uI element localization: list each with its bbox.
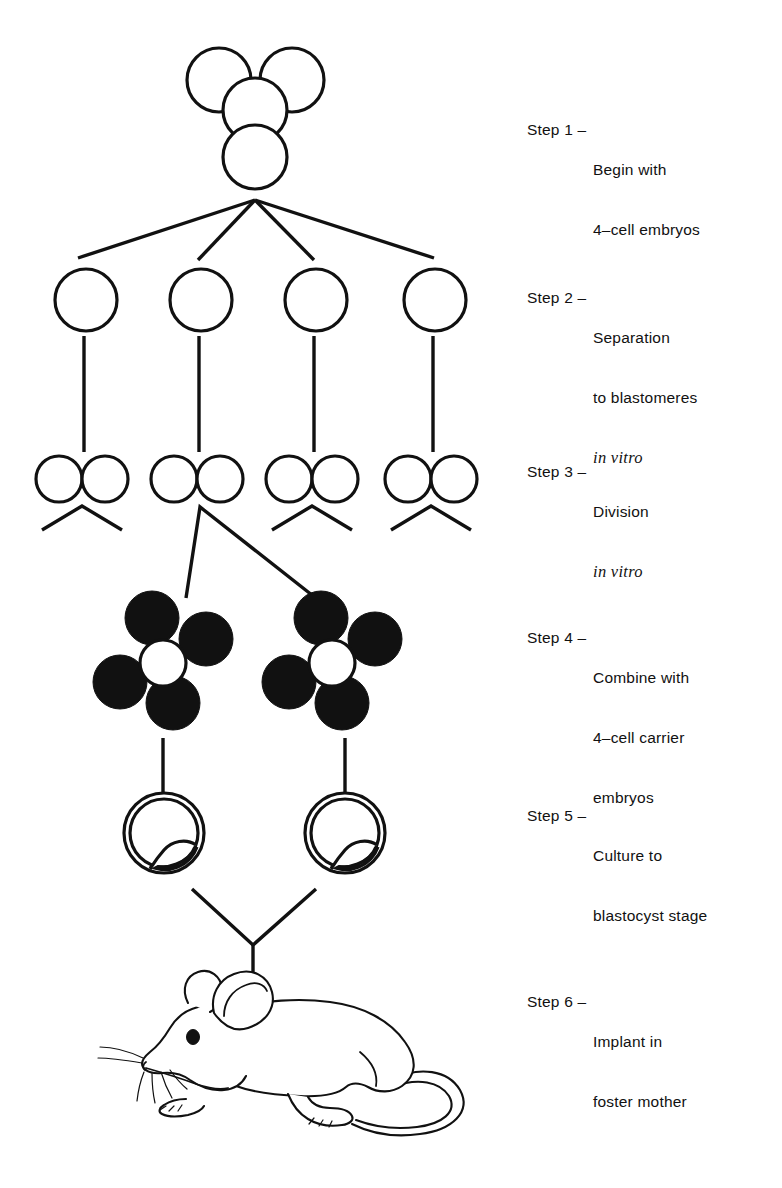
donor-cell-right-top-right <box>348 612 402 666</box>
step-text-5: Culture to blastocyst stage <box>593 806 707 966</box>
pair-1-right-cell <box>82 456 128 502</box>
mouse-front-paw <box>160 1099 204 1116</box>
host-cell-left <box>140 640 186 686</box>
pair-4-left-cell <box>385 456 431 502</box>
step-label-5: Step 5 – Culture to blastocyst stage <box>527 806 545 886</box>
step5-blastocysts-group <box>124 793 385 873</box>
mouse-hind-leg <box>288 1094 353 1126</box>
step2-to-step3-connectors <box>84 336 433 452</box>
blastomere-4 <box>404 269 466 331</box>
carrier-cluster-right <box>262 591 402 730</box>
step-text-6: Implant in foster mother <box>593 992 687 1152</box>
step2-blastomeres-group <box>55 269 466 331</box>
blastomere-1 <box>55 269 117 331</box>
step1-embryo-group <box>187 48 324 189</box>
step4-to-step5-connectors <box>163 738 345 793</box>
carrier-cluster-left <box>93 591 233 730</box>
donor-cell-left-top-left <box>125 591 179 645</box>
step-5-line-2: blastocyst stage <box>593 906 707 926</box>
foster-mother-mouse <box>98 971 464 1135</box>
step1-to-step2-connectors <box>78 200 434 260</box>
step-4-line-1: Combine with <box>593 668 689 688</box>
step-3-italic-1: in vitro <box>593 562 649 582</box>
step-6-line-2: foster mother <box>593 1092 687 1112</box>
step4-carrier-clusters-group <box>93 591 402 730</box>
step3-divided-pairs-group <box>36 456 477 502</box>
pair-3-right-cell <box>312 456 358 502</box>
step-key-4: Step 4 – <box>527 628 586 648</box>
step-label-6: Step 6 – Implant in foster mother <box>527 992 545 1072</box>
step-1-line-2: 4–cell embryos <box>593 220 700 240</box>
connector-pair2-to-carriers <box>186 507 317 599</box>
step-label-4: Step 4 – Combine with 4–cell carrier emb… <box>527 628 545 708</box>
blastomere-2 <box>170 269 232 331</box>
step3-chevrons-group <box>42 506 471 599</box>
host-cell-right <box>309 640 355 686</box>
whisker-2 <box>98 1058 142 1063</box>
step-2-line-1: Separation <box>593 328 697 348</box>
step-2-line-2: to blastomeres <box>593 388 697 408</box>
pair-2-left-cell <box>151 456 197 502</box>
chevron-1 <box>42 506 122 530</box>
pair-1-left-cell <box>36 456 82 502</box>
pair-4-right-cell <box>431 456 477 502</box>
step-label-1: Step 1 – Begin with 4–cell embryos <box>527 120 545 200</box>
pair-3-left-cell <box>266 456 312 502</box>
step-3-line-1: Division <box>593 502 649 522</box>
mouse-eye <box>187 1030 200 1045</box>
chevron-3 <box>272 506 352 530</box>
whisker-4 <box>152 1073 155 1103</box>
step-key-3: Step 3 – <box>527 462 586 482</box>
step-1-line-1: Begin with <box>593 160 700 180</box>
donor-cell-left-top-right <box>179 612 233 666</box>
step-label-2: Step 2 – Separation to blastomeres in vi… <box>527 288 545 368</box>
step-6-line-1: Implant in <box>593 1032 687 1052</box>
connector-y-junction <box>192 889 316 945</box>
step-text-1: Begin with 4–cell embryos <box>593 120 700 280</box>
step-5-line-1: Culture to <box>593 846 707 866</box>
diagram-root: Step 1 – Begin with 4–cell embryos Step … <box>0 0 782 1188</box>
step-key-1: Step 1 – <box>527 120 586 140</box>
step-4-line-2: 4–cell carrier <box>593 728 689 748</box>
whisker-1 <box>100 1047 143 1058</box>
step-text-3: Division in vitro <box>593 462 649 622</box>
donor-cell-right-top-left <box>294 591 348 645</box>
pair-2-right-cell <box>197 456 243 502</box>
step-key-2: Step 2 – <box>527 288 586 308</box>
blastocyst-right <box>305 793 385 873</box>
blastocyst-left <box>124 793 204 873</box>
blastomere-3 <box>285 269 347 331</box>
step-4-line-3: embryos <box>593 788 689 808</box>
step-label-3: Step 3 – Division in vitro <box>527 462 545 542</box>
step-key-5: Step 5 – <box>527 806 586 826</box>
whisker-3 <box>137 1072 144 1101</box>
cell-lower <box>223 125 287 189</box>
step-key-6: Step 6 – <box>527 992 586 1012</box>
chevron-4 <box>391 506 471 530</box>
